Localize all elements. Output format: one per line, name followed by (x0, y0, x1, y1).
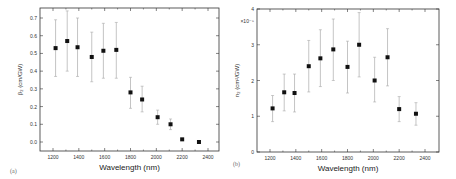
data-point (180, 137, 184, 141)
y-tick-label: 0.0 (30, 139, 37, 145)
data-point (140, 97, 144, 101)
x-tick-label: 2000 (151, 154, 162, 160)
x-tick-label: 1200 (264, 155, 275, 161)
y-tick-label: 0 (251, 149, 254, 155)
data-point (90, 55, 94, 59)
x-tick-label: 1600 (316, 155, 327, 161)
x-tick-label: 2400 (202, 154, 213, 160)
data-point (293, 91, 297, 95)
y-axis-title: n₂ (cm²/GW) (234, 64, 240, 97)
y-axis-title: β₂ (cm/GW) (17, 64, 23, 95)
plot-frame (40, 8, 219, 151)
x-tick-label: 1800 (125, 154, 136, 160)
y-tick-label: 4 (251, 6, 254, 12)
data-point (54, 46, 58, 50)
panel-label: (a) (10, 168, 17, 175)
data-point (271, 106, 275, 110)
x-tick-label: 1400 (290, 155, 301, 161)
x-tick-label: 1800 (342, 155, 353, 161)
y-tick-label: 3 (251, 42, 254, 48)
y-tick-label: 0.4 (30, 68, 37, 74)
data-point (282, 90, 286, 94)
data-point (397, 107, 401, 111)
data-point (169, 122, 173, 126)
x-tick-label: 1200 (47, 154, 58, 160)
y-tick-label: 1 (251, 113, 254, 119)
x-tick-label: 2200 (177, 154, 188, 160)
data-point (346, 65, 350, 69)
data-point (414, 112, 418, 116)
y-tick-label: 0.2 (30, 104, 37, 110)
x-tick-label: 2400 (419, 155, 430, 161)
data-point (101, 49, 105, 53)
data-point (65, 39, 69, 43)
data-point (307, 64, 311, 68)
x-axis-title: Wavelength (nm) (99, 163, 160, 172)
y-multiplier: ×10⁻⁵ (240, 18, 254, 24)
data-point (373, 79, 377, 83)
data-point (114, 48, 118, 52)
data-point (129, 90, 133, 94)
x-tick-label: 2200 (394, 155, 405, 161)
y-tick-label: 0.6 (30, 33, 37, 39)
figure: 12001400160018002000220024000.00.10.20.3… (0, 0, 456, 179)
data-point (331, 47, 335, 51)
x-tick-label: 1400 (73, 154, 84, 160)
x-tick-label: 1600 (99, 154, 110, 160)
y-tick-label: 0.5 (30, 50, 37, 56)
data-point (76, 45, 80, 49)
data-point (197, 140, 201, 144)
data-point (318, 56, 322, 60)
data-point (357, 43, 361, 47)
y-tick-label: 2 (251, 78, 254, 84)
panel-label: (b) (233, 161, 240, 168)
data-point (156, 115, 160, 119)
y-tick-label: 0.3 (30, 86, 37, 92)
y-tick-label: 0.1 (30, 121, 37, 127)
chart-panel-a: 12001400160018002000220024000.00.10.20.3… (10, 8, 219, 175)
chart-panel-b: 120014001600180020002200240001234Wavelen… (233, 6, 439, 173)
data-point (386, 55, 390, 59)
x-axis-title: Wavelength (nm) (318, 164, 379, 173)
x-tick-label: 2000 (368, 155, 379, 161)
y-tick-label: 0.7 (30, 15, 37, 21)
